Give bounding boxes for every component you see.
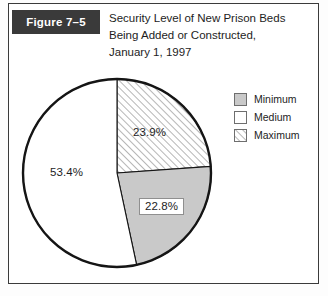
legend-label-maximum: Maximum (254, 129, 300, 142)
legend-label-minimum: Minimum (254, 93, 297, 106)
figure-title-line-1: Security Level of New Prison Beds (109, 10, 309, 27)
figure-title-line-3: January 1, 1997 (109, 44, 309, 61)
legend-item-medium: Medium (234, 108, 318, 126)
chart-legend: Minimum Medium Maximum (234, 90, 318, 144)
figure-number-chip: Figure 7–5 (12, 10, 100, 34)
slice-label-maximum: 23.9% (133, 126, 166, 138)
figure-number-label: Figure 7–5 (26, 16, 86, 28)
legend-item-minimum: Minimum (234, 90, 318, 108)
pie-chart-svg (18, 72, 218, 276)
solid-gray-swatch-icon (234, 93, 247, 106)
pie-chart (18, 72, 218, 276)
solid-white-swatch-icon (234, 111, 247, 124)
figure-root: Figure 7–5 Security Level of New Prison … (0, 0, 328, 296)
figure-title: Security Level of New Prison Beds Being … (109, 10, 309, 61)
slice-label-medium: 53.4% (50, 166, 83, 178)
figure-title-line-2: Being Added or Constructed, (109, 27, 309, 44)
slice-label-minimum: 22.8% (139, 198, 184, 215)
legend-item-maximum: Maximum (234, 126, 318, 144)
legend-label-medium: Medium (254, 111, 291, 124)
diagonal-hatch-swatch-icon (234, 129, 247, 142)
